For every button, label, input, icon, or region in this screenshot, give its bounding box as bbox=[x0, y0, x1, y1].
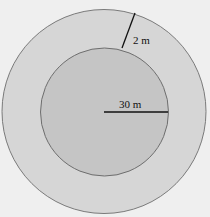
ring-width-label: 2 m bbox=[133, 34, 150, 46]
concentric-circle-diagram: 2 m 30 m bbox=[0, 0, 210, 217]
radius-label: 30 m bbox=[119, 98, 142, 110]
